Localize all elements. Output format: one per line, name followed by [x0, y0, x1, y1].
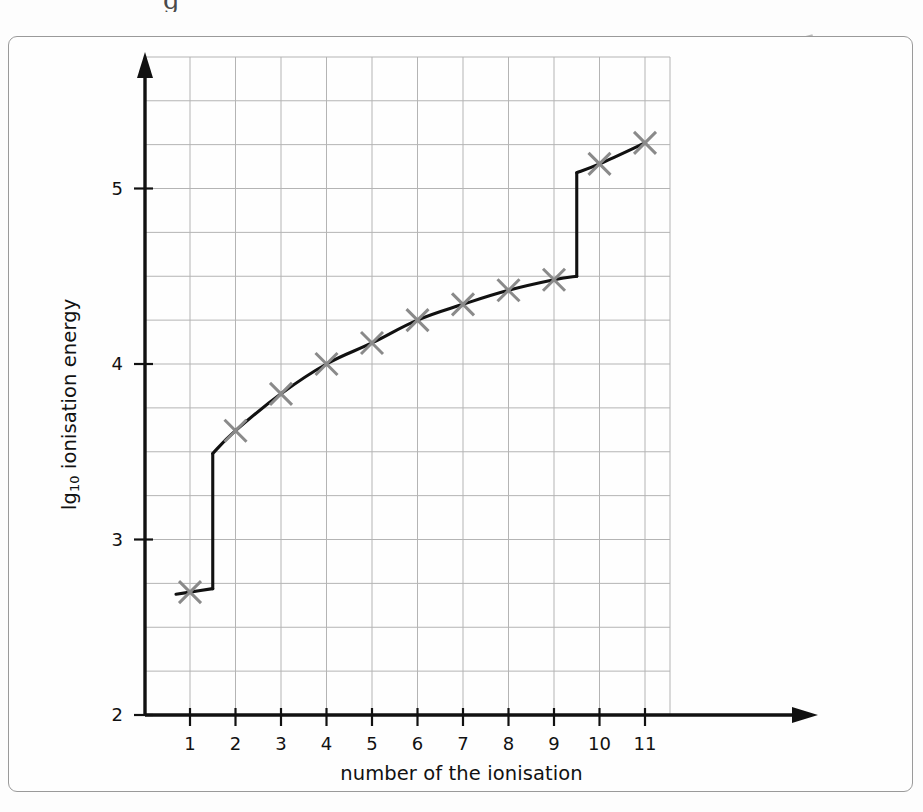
- y-tick-label: 2: [67, 704, 123, 725]
- x-tick-label: 11: [615, 733, 675, 754]
- y-axis-title-subscript: 10: [67, 475, 82, 492]
- axis-lines: [134, 52, 818, 726]
- plot-area: 1234567891011 2345: [0, 0, 923, 812]
- data-series-line: [176, 143, 645, 594]
- chart-svg: [0, 0, 923, 812]
- y-axis-title-suffix: ionisation energy: [58, 299, 81, 476]
- y-axis-title-prefix: lg: [58, 492, 81, 510]
- chart-page: g 1234567891011 2345 number of the ionis…: [0, 0, 923, 812]
- x-axis-title: number of the ionisation: [0, 762, 923, 785]
- y-axis-title: lg10 ionisation energy: [58, 194, 83, 614]
